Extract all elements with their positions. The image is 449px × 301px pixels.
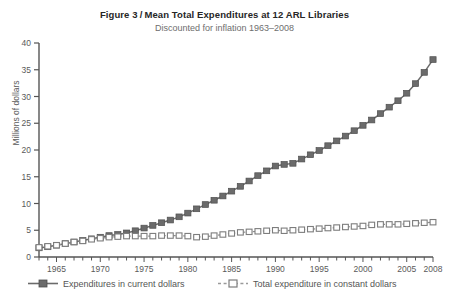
data-point-marker <box>386 222 392 227</box>
data-point-marker <box>202 234 208 239</box>
y-tick-label: 25 <box>22 118 32 128</box>
series-group <box>36 57 436 251</box>
x-tick-label: 1965 <box>47 264 66 274</box>
x-tick-label: 1990 <box>266 264 285 274</box>
data-point-marker <box>412 81 418 87</box>
x-tick-label: 1970 <box>91 264 110 274</box>
data-point-marker <box>167 233 173 238</box>
data-point-marker <box>273 228 279 233</box>
data-point-marker <box>351 128 357 134</box>
data-point-marker <box>220 232 226 237</box>
data-point-marker <box>255 173 261 179</box>
data-point-marker <box>185 233 191 238</box>
y-tick-label: 20 <box>22 145 32 155</box>
legend-label-current-dollars: Expenditures in current dollars <box>63 279 185 289</box>
data-point-marker <box>255 229 261 234</box>
data-point-marker <box>89 237 95 242</box>
data-point-marker <box>325 143 331 149</box>
data-point-marker <box>185 210 191 216</box>
data-point-marker <box>325 225 331 230</box>
data-point-marker <box>290 228 296 233</box>
data-point-marker <box>54 243 60 248</box>
data-point-marker <box>281 162 287 168</box>
x-tick-label: 2008 <box>424 264 443 274</box>
y-tick-label: 5 <box>26 225 31 235</box>
y-tick-group: 0510152025303540 <box>22 38 39 262</box>
data-point-marker <box>62 241 68 246</box>
data-point-marker <box>211 233 217 238</box>
x-tick-label: 1975 <box>135 264 154 274</box>
data-point-marker <box>36 245 42 250</box>
data-point-marker <box>395 98 401 104</box>
data-point-marker <box>404 90 410 96</box>
data-point-marker <box>229 188 235 194</box>
data-point-marker <box>360 122 366 128</box>
data-point-marker <box>430 57 436 63</box>
legend-marker-open-square-icon <box>218 278 248 289</box>
data-point-marker <box>132 233 138 238</box>
data-point-marker <box>211 197 217 203</box>
data-point-marker <box>150 233 156 238</box>
chart-legend: Expenditures in current dollars Total ex… <box>0 277 449 295</box>
data-point-marker <box>351 224 357 229</box>
data-point-marker <box>342 133 348 139</box>
data-point-marker <box>421 220 427 225</box>
x-tick-label: 2005 <box>397 264 416 274</box>
data-point-marker <box>176 233 182 238</box>
data-point-marker <box>202 202 208 208</box>
data-point-marker <box>97 236 103 241</box>
data-point-marker <box>421 70 427 76</box>
legend-item-constant-dollars: Total expenditure in constant dollars <box>218 278 397 289</box>
data-point-marker <box>281 228 287 233</box>
data-point-marker <box>45 244 51 249</box>
data-point-marker <box>308 226 314 231</box>
data-point-marker <box>106 235 112 240</box>
data-point-marker <box>316 226 322 231</box>
data-point-marker <box>413 221 419 226</box>
data-point-marker <box>176 214 182 220</box>
data-point-marker <box>378 222 384 227</box>
data-point-marker <box>141 225 147 231</box>
data-point-marker <box>360 223 366 228</box>
x-tick-label: 1985 <box>222 264 241 274</box>
data-point-marker <box>141 233 147 238</box>
data-point-marker <box>343 224 349 229</box>
series-constant-dollars <box>36 220 436 251</box>
x-tick-label: 1995 <box>310 264 329 274</box>
data-point-marker <box>404 221 410 226</box>
data-point-marker <box>71 239 77 244</box>
x-tick-label: 2000 <box>353 264 372 274</box>
data-point-marker <box>395 222 401 227</box>
data-point-marker <box>158 220 164 226</box>
data-point-marker <box>307 152 313 158</box>
data-point-marker <box>167 217 173 223</box>
y-tick-label: 0 <box>26 252 31 262</box>
y-tick-label: 40 <box>22 38 32 48</box>
data-point-marker <box>316 148 322 154</box>
legend-item-current-dollars: Expenditures in current dollars <box>28 278 185 289</box>
data-point-marker <box>237 230 243 235</box>
data-point-marker <box>386 104 392 110</box>
data-point-marker <box>246 178 252 184</box>
data-point-marker <box>334 138 340 144</box>
data-point-marker <box>124 233 130 238</box>
y-tick-label: 15 <box>22 172 32 182</box>
data-point-marker <box>229 231 235 236</box>
data-point-marker <box>159 233 165 238</box>
data-point-marker <box>80 238 86 243</box>
data-point-marker <box>334 225 340 230</box>
x-tick-group: 1965197019751980198519901995200020052008 <box>39 257 443 274</box>
data-point-marker <box>299 227 305 232</box>
data-point-marker <box>272 163 278 169</box>
x-tick-label: 1980 <box>178 264 197 274</box>
y-tick-label: 30 <box>22 92 32 102</box>
data-point-marker <box>290 160 296 166</box>
data-point-marker <box>246 229 252 234</box>
data-point-marker <box>299 156 305 162</box>
data-point-marker <box>150 223 156 229</box>
data-point-marker <box>264 228 270 233</box>
legend-label-constant-dollars: Total expenditure in constant dollars <box>253 279 397 289</box>
data-point-marker <box>369 117 375 123</box>
y-tick-label: 10 <box>22 199 32 209</box>
data-point-marker <box>237 183 243 189</box>
